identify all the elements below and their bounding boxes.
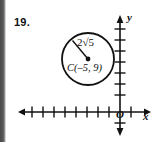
y-axis-label: y (127, 11, 132, 23)
y-axis-arrow-down (117, 128, 124, 136)
x-axis-label: x (143, 110, 149, 122)
y-axis-arrow-up (117, 15, 124, 23)
center-point-dot (86, 57, 91, 62)
radius-length-label: 2√5 (77, 36, 94, 48)
origin-label: O (116, 108, 124, 120)
textbook-figure-screenshot: 19. (0, 0, 154, 142)
x-axis-arrow-left (18, 109, 25, 116)
circle-center-label: C(–5, 9) (67, 62, 102, 73)
